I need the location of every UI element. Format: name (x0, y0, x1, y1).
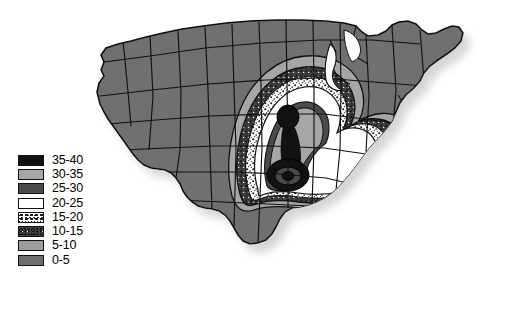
legend-row-25-30[interactable]: 25-30 (18, 182, 110, 196)
legend-row-20-25[interactable]: 20-25 (18, 196, 110, 210)
legend-swatch-10-15 (18, 226, 44, 237)
legend-label-5-10: 5-10 (52, 239, 76, 252)
figure-canvas: 35-40 30-35 25-30 20-25 15-20 10-15 5-10 (0, 0, 512, 312)
map-legend: 35-40 30-35 25-30 20-25 15-20 10-15 5-10 (18, 153, 110, 267)
legend-label-10-15: 10-15 (52, 225, 83, 238)
legend-row-5-10[interactable]: 5-10 (18, 239, 110, 253)
legend-label-20-25: 20-25 (52, 197, 83, 210)
legend-swatch-35-40 (18, 155, 44, 166)
legend-row-10-15[interactable]: 10-15 (18, 224, 110, 238)
legend-swatch-20-25 (18, 198, 44, 209)
legend-label-35-40: 35-40 (52, 154, 83, 167)
legend-row-15-20[interactable]: 15-20 (18, 210, 110, 224)
legend-swatch-5-10 (18, 240, 44, 251)
legend-swatch-25-30 (18, 183, 44, 194)
legend-row-0-5[interactable]: 0-5 (18, 253, 110, 267)
legend-swatch-30-35 (18, 169, 44, 180)
legend-label-0-5: 0-5 (52, 254, 69, 267)
legend-row-35-40[interactable]: 35-40 (18, 153, 110, 167)
legend-swatch-15-20 (18, 212, 44, 223)
legend-label-15-20: 15-20 (52, 211, 83, 224)
legend-label-30-35: 30-35 (52, 168, 83, 181)
legend-swatch-0-5 (18, 255, 44, 266)
legend-row-30-35[interactable]: 30-35 (18, 167, 110, 181)
legend-label-25-30: 25-30 (52, 182, 83, 195)
